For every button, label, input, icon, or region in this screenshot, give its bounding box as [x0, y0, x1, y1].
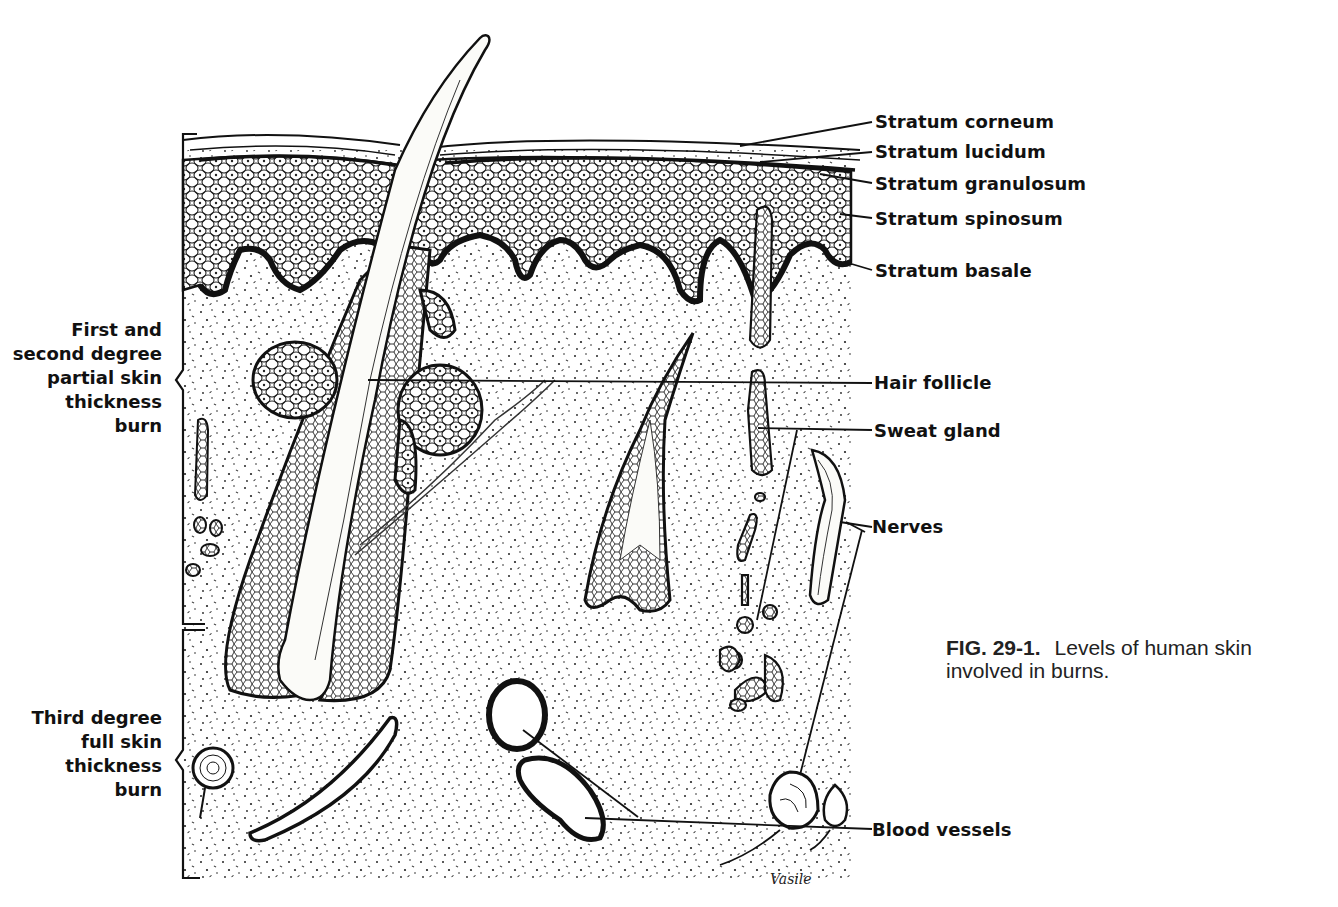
label-hair-follicle: Hair follicle [874, 372, 992, 394]
label-full-thickness-burn: Third degree full skin thickness burn [0, 706, 162, 802]
label-sweat-gland: Sweat gland [874, 420, 1001, 442]
label-line: burn [0, 414, 162, 438]
label-line: thickness [0, 390, 162, 414]
label-line: thickness [0, 754, 162, 778]
label-nerves: Nerves [872, 516, 943, 538]
label-line: First and [0, 318, 162, 342]
label-blood-vessels: Blood vessels [872, 819, 1012, 841]
label-line: burn [0, 778, 162, 802]
label-line: second degree [0, 342, 162, 366]
figure-caption: FIG. 29-1.Levels of human skin involved … [946, 636, 1326, 682]
label-stratum-spinosum: Stratum spinosum [875, 208, 1063, 230]
label-stratum-granulosum: Stratum granulosum [875, 173, 1086, 195]
figure-number: FIG. 29-1. [946, 636, 1041, 659]
label-stratum-lucidum: Stratum lucidum [875, 141, 1046, 163]
label-line: partial skin [0, 366, 162, 390]
label-line: full skin [0, 730, 162, 754]
skin-cross-section-illustration: Vasile [0, 0, 1338, 907]
artist-signature: Vasile [770, 871, 812, 887]
caption-line-2: involved in burns. [946, 659, 1109, 682]
label-partial-thickness-burn: First and second degree partial skin thi… [0, 318, 162, 438]
label-stratum-corneum: Stratum corneum [875, 111, 1054, 133]
label-stratum-basale: Stratum basale [875, 260, 1032, 282]
label-line: Third degree [0, 706, 162, 730]
caption-line-1: Levels of human skin [1055, 636, 1252, 659]
